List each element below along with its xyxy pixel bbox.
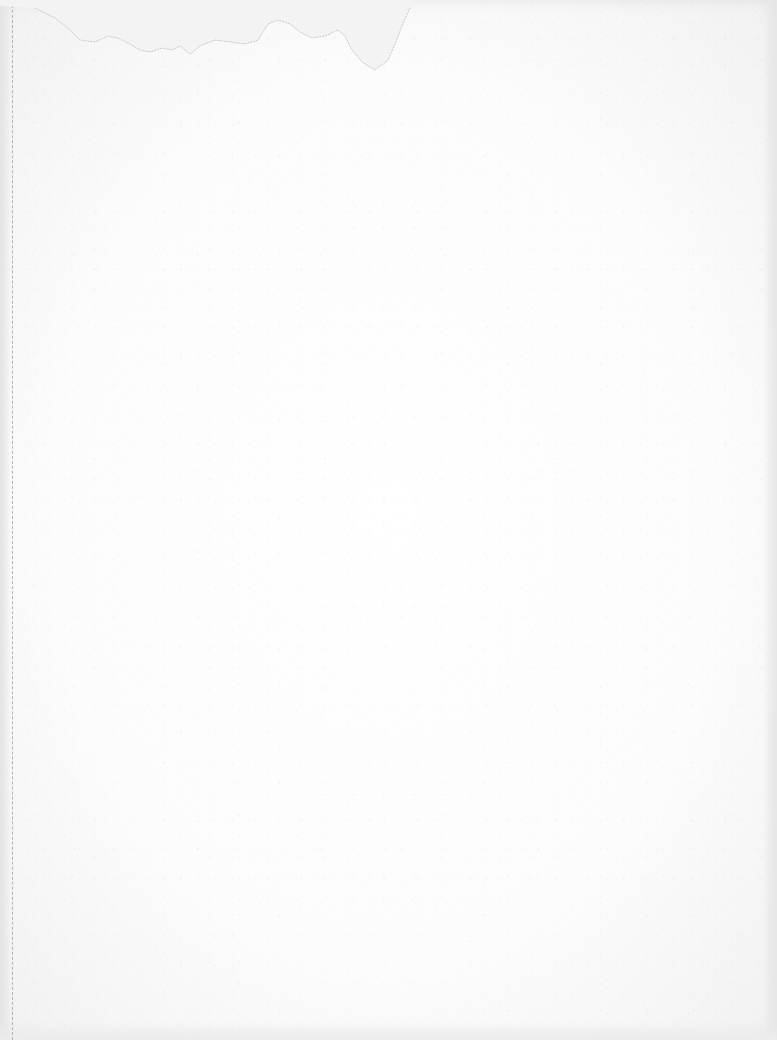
left-edge-shadow — [0, 0, 10, 1040]
page-content — [60, 100, 737, 1000]
torn-top-edge — [0, 0, 777, 80]
left-perforation-line — [12, 0, 13, 1040]
right-edge-shadow — [763, 0, 777, 1040]
blank-paper-sheet — [0, 0, 777, 1040]
bottom-edge-shadow — [0, 1022, 777, 1040]
